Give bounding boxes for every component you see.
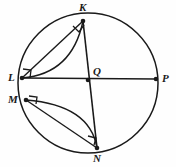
vertex-dot-N (95, 146, 100, 151)
vertex-dot-M (24, 98, 29, 103)
vertex-dot-K (81, 19, 86, 24)
vertex-dot-Q (86, 78, 91, 83)
geometry-diagram (0, 0, 176, 167)
vertex-label-P: P (162, 73, 169, 84)
vertex-label-K: K (79, 2, 86, 13)
right-angle-mark-N (88, 136, 96, 145)
vertex-dot-L (20, 76, 25, 81)
geometry-figure: K L M N P Q (0, 0, 176, 167)
vertex-dot-P (154, 77, 159, 82)
vertex-label-Q: Q (93, 66, 101, 77)
vertex-label-L: L (8, 72, 15, 83)
main-circle (18, 13, 158, 153)
vertex-label-N: N (93, 153, 101, 164)
vertex-label-M: M (8, 94, 18, 105)
